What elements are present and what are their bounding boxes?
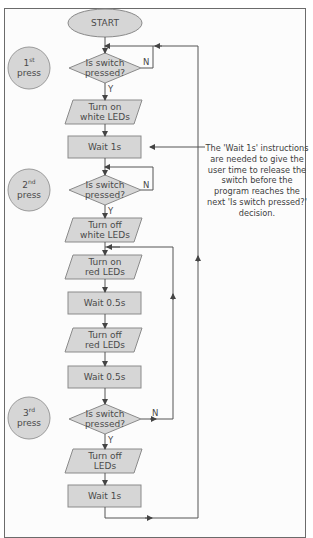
- wait-1-label: Wait 1s: [68, 136, 141, 158]
- decision-1-label: Is switchpressed?: [75, 58, 135, 78]
- decision-3-label: Is switchpressed?: [75, 409, 135, 429]
- io-3-label: Turn onred LEDs: [68, 257, 142, 277]
- wait-3-label: Wait 0.5s: [68, 366, 141, 388]
- press-badge-2: [8, 169, 50, 211]
- press-badge-3: [8, 397, 50, 439]
- no-label-1: N: [143, 57, 149, 67]
- no-label-2: N: [143, 180, 149, 190]
- wait-annotation: The 'Wait 1s' instructions are needed to…: [205, 143, 309, 219]
- yes-label-1: Y: [108, 84, 113, 94]
- start-label: START: [68, 13, 142, 33]
- decision-2-label: Is switchpressed?: [75, 180, 135, 200]
- io-5-label: Turn offLEDs: [68, 451, 142, 471]
- io-2-label: Turn offwhite LEDs: [68, 220, 142, 240]
- no-label-3: N: [152, 408, 158, 418]
- yes-label-2: Y: [108, 206, 113, 216]
- wait-2-label: Wait 0.5s: [68, 292, 141, 314]
- wait-4-label: Wait 1s: [68, 485, 141, 507]
- io-4-label: Turn offred LEDs: [68, 330, 142, 350]
- yes-label-3: Y: [108, 435, 113, 445]
- io-1-label: Turn onwhite LEDs: [68, 102, 142, 122]
- press-badge-1: [8, 47, 50, 89]
